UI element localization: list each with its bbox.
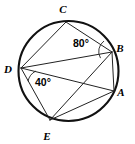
angle-label-80: 80° — [73, 37, 89, 49]
angle-label-group: 80° 40° — [35, 37, 89, 88]
angle-label-40: 40° — [35, 76, 51, 88]
diagonal-EB — [50, 52, 112, 120]
circle-geometry-diagram: A B C D E 80° 40° — [0, 0, 135, 144]
vertex-label-C: C — [59, 3, 67, 15]
chord-BA — [112, 52, 114, 91]
vertex-label-B: B — [115, 42, 123, 54]
vertex-label-A: A — [116, 86, 124, 98]
geometry-figure-container: A B C D E 80° 40° — [0, 0, 135, 144]
vertex-label-D: D — [3, 63, 12, 75]
vertex-label-E: E — [42, 130, 50, 142]
